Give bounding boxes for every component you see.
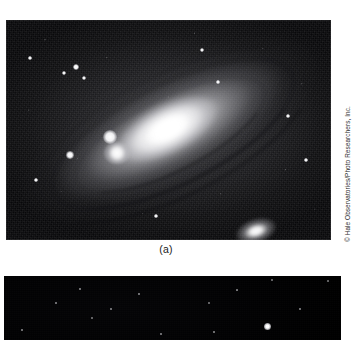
foreground-star (154, 214, 157, 217)
foreground-star (28, 56, 32, 60)
faint-star (160, 333, 162, 335)
faint-star (299, 308, 300, 309)
faint-star (21, 329, 23, 331)
figure-panel-a-image (6, 20, 331, 240)
foreground-star (286, 114, 290, 118)
faint-star (110, 308, 112, 310)
faint-star (138, 293, 139, 294)
photo-credit-text: © Hale Observatories/Photo Researchers, … (340, 100, 351, 242)
foreground-star (62, 71, 66, 75)
foreground-star (66, 151, 73, 158)
bright-star (264, 323, 271, 330)
faint-star (213, 331, 215, 333)
faint-star (55, 302, 57, 304)
foreground-star (304, 158, 307, 161)
faint-star (79, 288, 80, 289)
figure-panel-b-image (4, 276, 341, 340)
foreground-star (34, 178, 37, 181)
faint-star (236, 289, 238, 291)
faint-star (327, 280, 329, 282)
foreground-star (216, 80, 219, 83)
foreground-star (200, 48, 204, 52)
figure-caption-a: (a) (0, 243, 332, 255)
companion-galaxy-m32 (104, 142, 130, 164)
dark-sky-grain-texture (4, 276, 341, 340)
faint-star (208, 302, 210, 304)
photo-credit-label: © Hale Observatories/Photo Researchers, … (342, 106, 352, 242)
